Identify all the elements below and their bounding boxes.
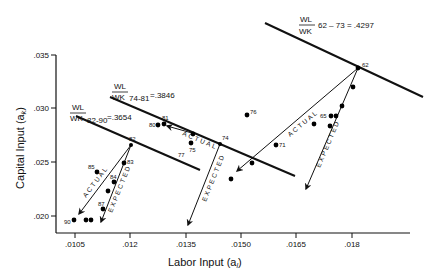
svg-text:62: 62 [362,62,369,68]
arrows [79,68,358,225]
arrow-expected-74 [188,144,220,225]
svg-text:65: 65 [320,113,327,119]
axes: .035 .030 .025 .020 .0105 .012 .0135 .01… [14,51,410,269]
data-point [328,124,333,129]
ratio-label-74-81: WL WK 74-81 =.3846 [112,82,175,103]
chart: .035 .030 .025 .020 .0105 .012 .0135 .01… [0,0,436,279]
arrow-label-actual: ACTUAL [182,129,219,150]
data-point [106,189,111,194]
y-tick-label: .030 [33,104,49,113]
y-tick-label: .035 [33,51,49,60]
svg-text:62 – 73 = .4297: 62 – 73 = .4297 [318,21,374,30]
ratio-label-82-90: WL WK 82-90 =.3654 [70,103,132,125]
data-point [312,122,317,127]
data-point [329,114,334,119]
x-axis-title: Labor Input (al) [168,256,242,269]
x-tick-label: .0135 [176,240,197,249]
svg-text:WL: WL [114,82,127,91]
data-point [356,66,361,71]
data-point [189,141,194,146]
data-point [340,104,345,109]
data-point [101,207,106,212]
arrow-labels: ACTUAL EXPECTED EXPECTED ACTUAL ACTUAL E… [81,108,341,213]
y-ticks: .035 .030 .025 .020 [33,51,56,221]
svg-text:WL: WL [300,15,313,24]
svg-text:74: 74 [222,135,229,141]
x-tick-label: .012 [122,240,138,249]
data-point [250,161,255,166]
data-point [112,180,117,185]
svg-text:82-90: 82-90 [87,116,108,125]
data-point [156,123,161,128]
data-point [129,143,133,147]
data-point [191,132,196,137]
data-point [84,218,89,223]
svg-text:74-81: 74-81 [129,94,150,103]
svg-text:WK: WK [112,93,126,102]
arrow-label-actual: ACTUAL [81,164,109,198]
svg-text:=.3846: =.3846 [150,91,175,100]
x-tick-label: .0150 [231,240,252,249]
svg-text:80: 80 [149,122,156,128]
isocost-line-62-73 [265,23,423,97]
svg-text:WK: WK [299,27,313,36]
data-point [274,143,279,148]
arrow-label-expected: EXPECTED [106,163,132,213]
data-point [72,218,77,223]
data-point [229,177,234,182]
data-point [351,85,356,90]
data-point [95,170,100,175]
ratio-label-62-73: WL WK 62 – 73 = .4297 [299,15,374,36]
svg-text:87: 87 [98,201,105,207]
svg-text:WK: WK [70,114,84,123]
y-tick-label: .025 [33,158,49,167]
y-tick-label: .020 [33,212,49,221]
svg-text:77: 77 [178,152,185,158]
svg-text:81: 81 [162,115,169,121]
svg-text:84: 84 [110,174,117,180]
data-point [245,113,250,118]
svg-text:85: 85 [88,164,95,170]
data-point [122,161,127,166]
svg-text:75: 75 [189,147,196,153]
svg-text:76: 76 [250,109,257,115]
data-point [334,114,339,119]
arrow-actual-62 [237,68,358,171]
data-point [162,122,167,127]
svg-text:71: 71 [279,142,286,148]
y-axis-title: Capital Input (ak) [14,107,27,189]
x-tick-label: .018 [344,240,360,249]
svg-text:82: 82 [129,136,136,142]
svg-text:=.3654: =.3654 [107,113,132,122]
x-tick-label: .0105 [65,240,86,249]
x-ticks: .0105 .012 .0135 .0150 .0165 .018 [65,233,360,249]
svg-text:90: 90 [64,219,71,225]
svg-text:WL: WL [72,103,85,112]
svg-text:83: 83 [127,159,134,165]
data-point [218,142,222,146]
data-point [89,218,94,223]
x-tick-label: .0165 [286,240,307,249]
